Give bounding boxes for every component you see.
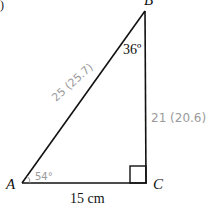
side-BC-handwritten: 21 (20.6)	[151, 111, 206, 125]
side-BC	[145, 11, 146, 183]
right-angle-marker	[130, 166, 146, 183]
side-AB-handwritten: 25 (25.7)	[49, 61, 95, 105]
side-AB	[22, 11, 145, 183]
triangle-diagram: ) B A C 36º 15 cm 54° 25 (25.7) 21 (20.6…	[0, 0, 222, 210]
vertex-label-C: C	[153, 176, 164, 192]
angle-arc-A	[27, 176, 30, 183]
vertex-label-A: A	[5, 176, 16, 192]
side-AC-label: 15 cm	[70, 191, 105, 206]
part-marker: )	[0, 0, 4, 12]
vertex-label-B: B	[144, 0, 153, 8]
angle-A-handwritten: 54°	[35, 171, 53, 182]
angle-B-label: 36º	[123, 42, 142, 57]
